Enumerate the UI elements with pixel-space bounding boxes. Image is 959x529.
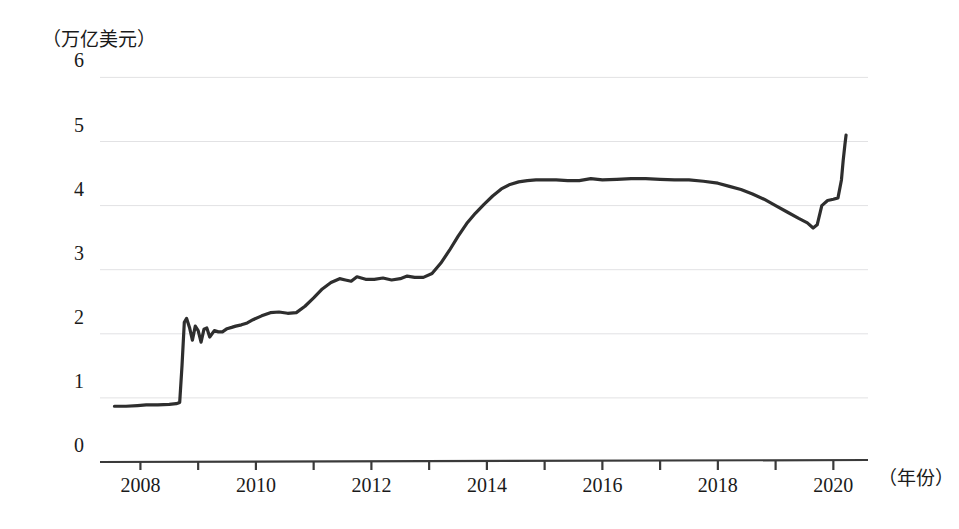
y-axis-tick-label: 0 xyxy=(74,434,84,456)
x-axis-tick-label: 2016 xyxy=(582,474,622,496)
y-axis-ticks: 0123456 xyxy=(74,49,84,456)
x-axis-label: （年份） xyxy=(878,468,954,489)
gridlines xyxy=(100,77,868,398)
y-axis-tick-label: 4 xyxy=(74,178,84,200)
x-axis-tick-label: 2018 xyxy=(698,474,738,496)
line-chart: 0123456 2008201020122014201620182020 （万亿… xyxy=(0,0,959,529)
x-axis-tick-label: 2014 xyxy=(467,474,507,496)
series-line-fed-assets xyxy=(114,135,846,406)
y-axis-tick-label: 1 xyxy=(74,370,84,392)
y-axis-tick-label: 3 xyxy=(74,242,84,264)
x-axis-ticks: 2008201020122014201620182020 xyxy=(120,461,853,496)
y-axis-tick-label: 6 xyxy=(74,49,84,71)
x-axis-line xyxy=(100,460,868,462)
x-axis-tick-label: 2008 xyxy=(120,474,160,496)
x-axis-tick-label: 2020 xyxy=(813,474,853,496)
y-axis-tick-label: 2 xyxy=(74,306,84,328)
y-axis-unit-label: （万亿美元） xyxy=(42,29,156,50)
x-axis-tick-label: 2010 xyxy=(236,474,276,496)
x-axis-tick-label: 2012 xyxy=(351,474,391,496)
chart-figure: 0123456 2008201020122014201620182020 （万亿… xyxy=(0,0,959,529)
y-axis-tick-label: 5 xyxy=(74,114,84,136)
